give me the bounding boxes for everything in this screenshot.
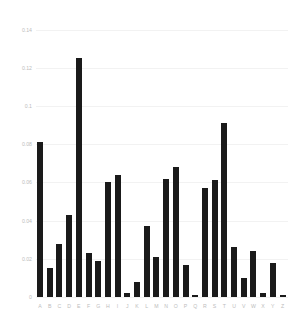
x-axis-tick-label-X: X bbox=[258, 303, 268, 309]
bar-K bbox=[134, 282, 140, 297]
bar-chart: 00.020.040.060.080.10.120.14 ABCDEFGHIJK… bbox=[0, 0, 294, 323]
bar-T bbox=[221, 123, 227, 297]
bar-R bbox=[202, 188, 208, 297]
x-axis-tick-label-K: K bbox=[132, 303, 142, 309]
plot-area bbox=[36, 20, 288, 297]
x-axis-tick-label-V: V bbox=[239, 303, 249, 309]
x-axis-tick-label-S: S bbox=[210, 303, 220, 309]
y-axis-tick-label: 0.12 bbox=[2, 65, 32, 71]
bar-I bbox=[115, 175, 121, 297]
bar-V bbox=[241, 278, 247, 297]
y-axis-tick-label: 0.1 bbox=[2, 103, 32, 109]
bar-Y bbox=[270, 263, 276, 297]
bar-series bbox=[36, 20, 288, 297]
x-axis-tick-label-E: E bbox=[74, 303, 84, 309]
x-axis-tick-label-H: H bbox=[103, 303, 113, 309]
x-axis-tick-label-Y: Y bbox=[268, 303, 278, 309]
bar-C bbox=[56, 244, 62, 297]
bar-M bbox=[153, 257, 159, 297]
bar-D bbox=[66, 215, 72, 297]
bar-F bbox=[86, 253, 92, 297]
y-axis-tick-label: 0.04 bbox=[2, 218, 32, 224]
y-axis-tick-label: 0.08 bbox=[2, 141, 32, 147]
x-axis-tick-label-G: G bbox=[93, 303, 103, 309]
bar-E bbox=[76, 58, 82, 297]
bar-P bbox=[183, 265, 189, 297]
x-axis-tick-label-M: M bbox=[151, 303, 161, 309]
bar-L bbox=[144, 226, 150, 297]
bar-J bbox=[124, 293, 130, 297]
bar-N bbox=[163, 179, 169, 297]
bar-W bbox=[250, 251, 256, 297]
y-axis-tick-label: 0 bbox=[2, 294, 32, 300]
y-axis-tick-label: 0.14 bbox=[2, 27, 32, 33]
x-axis-tick-label-Z: Z bbox=[278, 303, 288, 309]
x-axis-tick-label-J: J bbox=[122, 303, 132, 309]
bar-A bbox=[37, 142, 43, 297]
bar-G bbox=[95, 261, 101, 297]
x-axis-tick-label-A: A bbox=[35, 303, 45, 309]
x-axis-tick-label-P: P bbox=[181, 303, 191, 309]
x-axis-tick-label-D: D bbox=[64, 303, 74, 309]
bar-H bbox=[105, 182, 111, 297]
x-axis-tick-label-O: O bbox=[171, 303, 181, 309]
gridline bbox=[36, 297, 288, 298]
x-axis-tick-label-T: T bbox=[219, 303, 229, 309]
x-axis-tick-label-F: F bbox=[84, 303, 94, 309]
x-axis-tick-label-I: I bbox=[113, 303, 123, 309]
y-axis-tick-label: 0.02 bbox=[2, 256, 32, 262]
bar-S bbox=[212, 180, 218, 297]
x-axis-tick-label-C: C bbox=[54, 303, 64, 309]
x-axis-tick-label-W: W bbox=[248, 303, 258, 309]
x-axis-tick-label-Q: Q bbox=[190, 303, 200, 309]
bar-X bbox=[260, 293, 266, 297]
x-axis-tick-label-U: U bbox=[229, 303, 239, 309]
bar-Q bbox=[192, 295, 198, 297]
bar-O bbox=[173, 167, 179, 297]
bar-B bbox=[47, 268, 53, 297]
x-axis-tick-label-B: B bbox=[45, 303, 55, 309]
x-axis-tick-label-L: L bbox=[142, 303, 152, 309]
x-axis-tick-label-N: N bbox=[161, 303, 171, 309]
bar-Z bbox=[280, 295, 286, 297]
x-axis-tick-label-R: R bbox=[200, 303, 210, 309]
bar-U bbox=[231, 247, 237, 297]
y-axis-tick-label: 0.06 bbox=[2, 179, 32, 185]
